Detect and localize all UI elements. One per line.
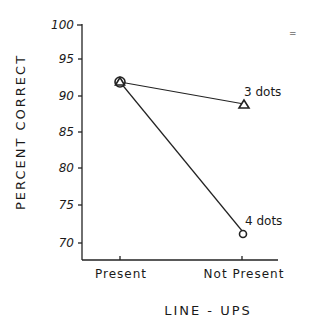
x-category-present: Present — [95, 267, 147, 281]
y-tick-85: 85 — [59, 125, 74, 139]
x-category-not-present: Not Present — [204, 267, 285, 281]
y-tick-95: 95 — [59, 52, 74, 66]
marker-4-dots-not-present — [240, 231, 247, 238]
y-tick-labels: 100 95 90 85 80 75 70 — [51, 18, 74, 250]
y-tick-75: 75 — [59, 198, 74, 212]
x-axis-title: LINE - UPS — [164, 303, 252, 318]
y-tick-90: 90 — [59, 89, 75, 103]
y-tick-100: 100 — [51, 18, 74, 32]
y-ticks — [77, 25, 82, 243]
series-label-3-dots: 3 dots — [244, 85, 281, 99]
line-chart: PERCENT CORRECT 100 95 90 85 80 75 70 Pr… — [0, 0, 315, 331]
series-label-4-dots: 4 dots — [245, 214, 282, 228]
series-line-3-dots — [120, 82, 244, 104]
series-line-4-dots — [120, 82, 243, 232]
stray-mark: = — [289, 28, 297, 38]
y-axis-title: PERCENT CORRECT — [13, 54, 28, 210]
y-tick-70: 70 — [59, 236, 75, 250]
marker-3-dots-not-present — [239, 100, 249, 108]
y-tick-80: 80 — [59, 161, 75, 175]
